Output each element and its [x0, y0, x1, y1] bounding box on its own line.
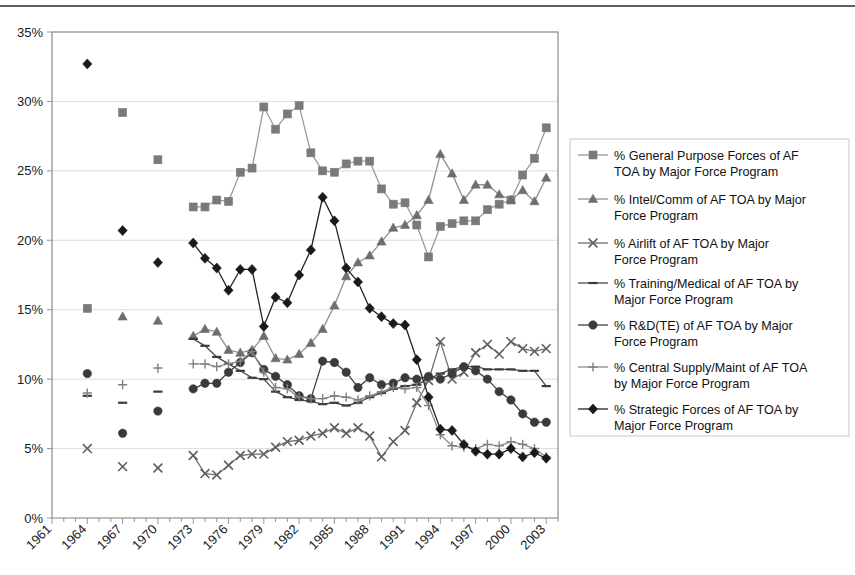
data-point-marker	[542, 124, 550, 132]
data-point-marker	[495, 387, 503, 395]
data-point-marker	[518, 410, 526, 418]
data-point-marker	[413, 221, 421, 229]
data-point-marker	[495, 200, 503, 208]
legend-label: Force Program	[614, 335, 698, 349]
data-point-marker	[354, 157, 362, 165]
data-point-marker	[271, 372, 279, 380]
data-point-marker	[542, 418, 550, 426]
data-point-marker	[295, 102, 303, 110]
legend-label: Major Force Program	[614, 293, 733, 307]
data-point-marker	[483, 206, 491, 214]
data-point-marker	[436, 375, 444, 383]
data-point-marker	[342, 160, 350, 168]
data-point-marker	[307, 149, 315, 157]
legend-label: % Strategic Forces of AF TOA by	[614, 403, 799, 417]
data-point-marker	[248, 164, 256, 172]
y-axis-label: 30%	[17, 94, 43, 109]
data-point-marker	[283, 110, 291, 118]
data-point-marker	[330, 168, 338, 176]
line-chart: 0%5%10%15%20%25%30%35% 19611964196719701…	[0, 0, 855, 575]
data-point-marker	[401, 199, 409, 207]
y-axis-label: 25%	[17, 163, 43, 178]
y-axis-label: 5%	[24, 441, 43, 456]
data-point-marker	[83, 304, 91, 312]
data-point-marker	[236, 168, 244, 176]
data-point-marker	[460, 217, 468, 225]
data-point-marker	[530, 154, 538, 162]
data-point-marker	[530, 418, 538, 426]
legend-label: Major Force Program	[614, 419, 733, 433]
legend-label: % Central Supply/Maint of AF TOA	[614, 361, 808, 375]
data-point-marker	[318, 357, 326, 365]
legend-label: % Airlift of AF TOA by Major	[614, 237, 769, 251]
data-point-marker	[460, 362, 468, 370]
data-point-marker	[213, 196, 221, 204]
data-point-marker	[589, 321, 597, 329]
legend-label: % General Purpose Forces of AF	[614, 149, 799, 163]
data-point-marker	[272, 125, 280, 133]
data-point-marker	[589, 151, 597, 159]
data-point-marker	[483, 375, 491, 383]
data-point-marker	[354, 383, 362, 391]
data-point-marker	[319, 167, 327, 175]
data-point-marker	[342, 368, 350, 376]
data-point-marker	[213, 379, 221, 387]
data-point-marker	[519, 171, 527, 179]
data-point-marker	[154, 407, 162, 415]
legend-label: % Intel/Comm of AF TOA by Major	[614, 193, 806, 207]
data-point-marker	[413, 375, 421, 383]
data-point-marker	[471, 367, 479, 375]
legend-label: by Major Force Program	[614, 377, 750, 391]
y-axis-label: 15%	[17, 302, 43, 317]
y-axis-label: 20%	[17, 233, 43, 248]
data-point-marker	[401, 374, 409, 382]
data-point-marker	[366, 157, 374, 165]
data-point-marker	[201, 203, 209, 211]
data-point-marker	[507, 396, 515, 404]
data-point-marker	[83, 369, 91, 377]
data-point-marker	[448, 220, 456, 228]
data-point-marker	[260, 103, 268, 111]
data-point-marker	[377, 185, 385, 193]
legend-label: TOA by Major Force Program	[614, 165, 778, 179]
data-point-marker	[389, 200, 397, 208]
legend-label: % R&D(TE) of AF TOA by Major	[614, 319, 793, 333]
legend-label: Force Program	[614, 209, 698, 223]
chart-container: 0%5%10%15%20%25%30%35% 19611964196719701…	[0, 0, 855, 575]
data-point-marker	[189, 203, 197, 211]
chart-legend: % General Purpose Forces of AFTOA by Maj…	[570, 139, 849, 436]
data-point-marker	[119, 109, 127, 117]
legend-label: Force Program	[614, 253, 698, 267]
data-point-marker	[424, 372, 432, 380]
y-axis-label: 35%	[17, 25, 43, 40]
legend-label: % Training/Medical of AF TOA by	[614, 277, 799, 291]
data-point-marker	[330, 358, 338, 366]
data-point-marker	[189, 385, 197, 393]
data-point-marker	[425, 253, 433, 261]
data-point-marker	[201, 379, 209, 387]
data-point-marker	[472, 217, 480, 225]
data-point-marker	[436, 222, 444, 230]
data-point-marker	[154, 156, 162, 164]
y-axis-label: 10%	[17, 372, 43, 387]
data-point-marker	[366, 374, 374, 382]
data-point-marker	[225, 197, 233, 205]
data-point-marker	[118, 429, 126, 437]
data-point-marker	[448, 369, 456, 377]
data-point-marker	[224, 368, 232, 376]
